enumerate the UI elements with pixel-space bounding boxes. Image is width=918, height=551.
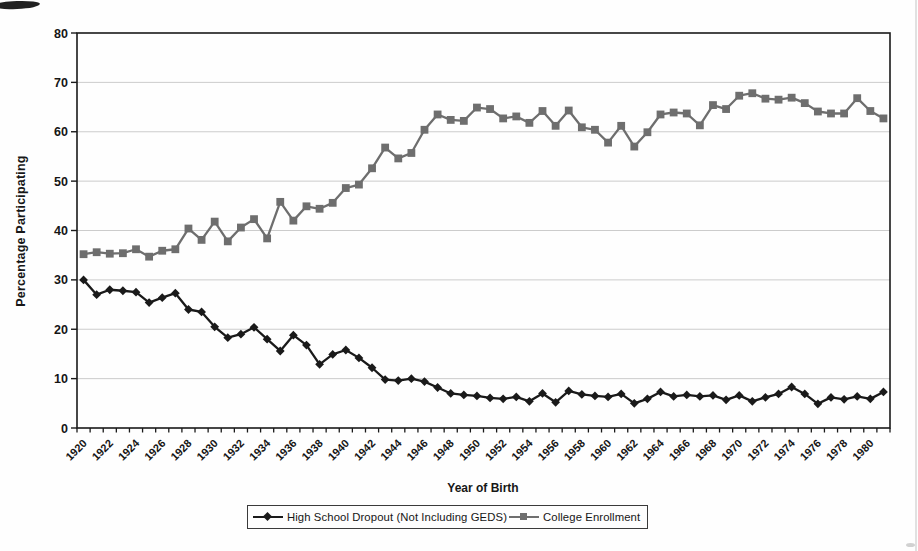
data-point-square xyxy=(185,225,193,233)
x-tick-label: 1932 xyxy=(221,437,247,463)
x-axis-title: Year of Birth xyxy=(447,481,518,495)
x-tick-label: 1960 xyxy=(588,437,614,463)
data-point-square xyxy=(644,128,652,136)
data-point-square xyxy=(539,107,547,115)
data-point-square xyxy=(683,110,691,118)
diamond-marker-icon xyxy=(253,512,283,522)
legend-item-dropout: High School Dropout (Not Including GEDS) xyxy=(253,511,507,523)
data-point-square xyxy=(775,96,783,104)
data-point-square xyxy=(604,139,612,147)
x-tick-label: 1926 xyxy=(142,437,168,463)
data-point-diamond xyxy=(695,392,704,401)
data-point-diamond xyxy=(394,376,403,385)
data-point-diamond xyxy=(473,392,482,401)
x-tick-label: 1980 xyxy=(850,437,876,463)
square-marker-icon xyxy=(509,512,539,522)
x-tick-label: 1924 xyxy=(116,436,142,462)
data-point-diamond xyxy=(591,392,600,401)
data-point-square xyxy=(735,92,743,100)
x-tick-label: 1962 xyxy=(614,437,640,463)
data-point-square xyxy=(853,94,861,102)
data-point-square xyxy=(106,250,114,258)
data-point-square xyxy=(788,94,796,102)
data-point-diamond xyxy=(840,395,849,404)
x-tick-label: 1974 xyxy=(771,436,797,462)
data-point-square xyxy=(670,109,678,117)
x-tick-label: 1968 xyxy=(693,437,719,463)
series-line-1 xyxy=(84,93,884,256)
data-point-square xyxy=(250,215,258,223)
data-point-square xyxy=(880,115,888,123)
x-tick-label: 1972 xyxy=(745,437,771,463)
x-tick-label: 1942 xyxy=(352,437,378,463)
data-point-diamond xyxy=(866,394,875,403)
data-point-square xyxy=(630,143,638,151)
data-point-square xyxy=(696,121,704,129)
data-point-diamond xyxy=(774,390,783,399)
data-point-square xyxy=(748,89,756,97)
x-tick-label: 1934 xyxy=(247,436,273,462)
data-point-square xyxy=(303,202,311,210)
data-point-square xyxy=(237,224,245,232)
x-tick-label: 1956 xyxy=(535,437,561,463)
legend-label-dropout: High School Dropout (Not Including GEDS) xyxy=(287,511,507,523)
data-point-square xyxy=(211,218,219,226)
data-point-diamond xyxy=(879,388,888,397)
data-point-square xyxy=(617,122,625,130)
data-point-square xyxy=(512,113,520,121)
data-point-square xyxy=(866,107,874,115)
data-point-diamond xyxy=(512,392,521,401)
data-point-square xyxy=(329,199,337,207)
data-point-diamond xyxy=(669,392,678,401)
data-point-square xyxy=(814,108,822,116)
data-point-square xyxy=(224,237,232,245)
y-tick-label: 30 xyxy=(54,273,68,287)
data-point-diamond xyxy=(787,383,796,392)
data-point-square xyxy=(263,235,271,243)
x-tick-label: 1936 xyxy=(273,437,299,463)
data-point-diamond xyxy=(446,389,455,398)
data-point-diamond xyxy=(499,394,508,403)
scan-speck-artifact xyxy=(906,543,915,547)
y-tick-label: 60 xyxy=(54,125,68,139)
data-point-square xyxy=(722,105,730,113)
data-point-diamond xyxy=(459,391,468,400)
data-point-square xyxy=(132,245,140,253)
data-point-square xyxy=(368,164,376,172)
data-point-square xyxy=(578,123,586,131)
y-tick-label: 50 xyxy=(54,175,68,189)
data-point-diamond xyxy=(577,390,586,399)
x-tick-label: 1958 xyxy=(561,437,587,463)
data-point-diamond xyxy=(237,330,246,339)
data-point-square xyxy=(119,249,127,257)
x-tick-label: 1966 xyxy=(666,437,692,463)
y-tick-label: 0 xyxy=(61,422,68,436)
data-point-diamond xyxy=(105,285,114,294)
x-tick-label: 1944 xyxy=(378,436,404,462)
data-point-square xyxy=(840,110,848,118)
data-point-square xyxy=(276,198,284,206)
data-point-square xyxy=(827,110,835,118)
data-point-square xyxy=(552,122,560,130)
data-point-square xyxy=(473,104,481,112)
data-point-diamond xyxy=(761,393,770,402)
x-tick-label: 1920 xyxy=(63,437,89,463)
data-point-diamond xyxy=(748,397,757,406)
y-tick-label: 20 xyxy=(54,323,68,337)
data-point-diamond xyxy=(486,393,495,402)
data-point-square xyxy=(565,107,573,115)
data-point-square xyxy=(657,111,665,119)
legend: High School Dropout (Not Including GEDS)… xyxy=(247,505,648,529)
x-tick-label: 1970 xyxy=(719,437,745,463)
x-tick-label: 1976 xyxy=(797,437,823,463)
x-tick-label: 1940 xyxy=(325,437,351,463)
data-point-square xyxy=(342,184,350,192)
y-axis-title: Percentage Participating xyxy=(14,155,28,306)
data-point-diamond xyxy=(709,391,718,400)
data-point-square xyxy=(407,149,415,157)
legend-label-college: College Enrollment xyxy=(543,511,640,523)
data-point-square xyxy=(316,205,324,213)
x-tick-label: 1950 xyxy=(457,437,483,463)
x-tick-label: 1954 xyxy=(509,436,535,462)
data-point-square xyxy=(525,119,533,127)
